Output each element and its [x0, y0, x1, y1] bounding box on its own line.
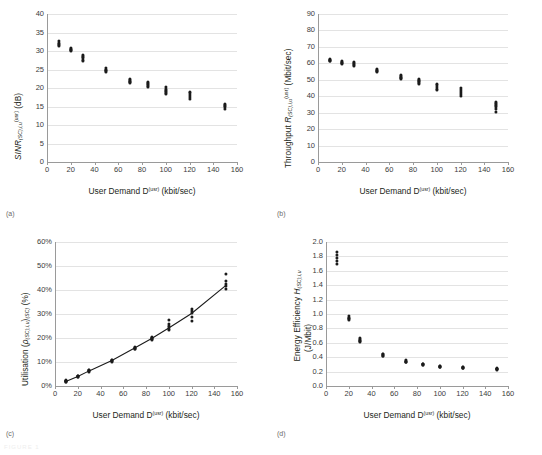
- data-point: [461, 366, 464, 369]
- y-tick-label: 35: [36, 29, 44, 37]
- data-point: [347, 318, 350, 321]
- gridline: [326, 328, 508, 329]
- caption-d: (d): [277, 430, 286, 437]
- y-tick-label: 2.0: [313, 238, 323, 246]
- subplot-a: 0510152025303540020406080100120140160 SI…: [0, 0, 271, 227]
- data-point: [340, 62, 343, 65]
- x-tick-label: 60: [114, 166, 122, 174]
- x-tick-label: 100: [433, 390, 446, 398]
- gridline: [318, 80, 508, 81]
- x-tick-label: 160: [231, 390, 244, 398]
- data-point: [435, 89, 438, 92]
- x-axis-label-a: User Demand D(usr) (kbit/sec): [88, 186, 195, 196]
- gridline: [326, 242, 508, 243]
- gridline: [326, 271, 508, 272]
- gridline: [318, 47, 508, 48]
- x-tick-label: 160: [231, 166, 244, 174]
- gridline: [47, 88, 237, 89]
- x-tick-label: 40: [361, 166, 369, 174]
- y-tick-label: 0.8: [313, 325, 323, 333]
- gridline: [318, 113, 508, 114]
- gridline: [47, 14, 237, 15]
- y-tick-label: 10: [36, 121, 44, 129]
- x-axis-label-d: User Demand D(usr) (kbit/sec): [363, 410, 470, 420]
- y-tick-label: 1.0: [313, 310, 323, 318]
- x-tick-label: 0: [316, 166, 320, 174]
- x-tick-label: 100: [430, 166, 443, 174]
- y-tick-label: 50%: [37, 262, 52, 270]
- data-point: [69, 49, 72, 52]
- y-tick-label: 30%: [37, 310, 52, 318]
- x-tick-label: 80: [413, 390, 421, 398]
- gridline: [318, 30, 508, 31]
- y-tick-label: 0.4: [313, 353, 323, 361]
- y-axis-label-d: Energy Efficiency H(SC),i,u: [293, 246, 302, 386]
- y-tick-label: 60: [307, 60, 315, 68]
- x-axis-label-b: User Demand D(usr) (kbit/sec): [359, 186, 466, 196]
- data-point: [417, 82, 420, 85]
- plot-area-a: 0510152025303540020406080100120140160: [47, 14, 237, 162]
- y-tick-label: 0: [40, 158, 44, 166]
- data-point: [129, 81, 132, 84]
- data-point: [438, 365, 441, 368]
- data-point: [105, 70, 108, 73]
- gridline: [326, 300, 508, 301]
- x-tick-label: 140: [478, 166, 491, 174]
- data-point: [188, 98, 191, 101]
- x-tick-label: 60: [119, 390, 127, 398]
- gridline: [47, 144, 237, 145]
- plot-area-c: 0%10%20%30%40%50%60%02040608010012014016…: [55, 242, 237, 386]
- data-point: [352, 64, 355, 67]
- y-tick-label: 20: [36, 84, 44, 92]
- y-tick-label: 25: [36, 66, 44, 74]
- data-point: [57, 44, 60, 47]
- y-tick-label: 1.4: [313, 281, 323, 289]
- data-point: [328, 60, 331, 63]
- y-axis-label-c: Utilisation (ρ(SC),i,u)(SC) (%): [21, 292, 30, 386]
- gridline: [47, 51, 237, 52]
- gridline: [318, 63, 508, 64]
- x-tick-label: 20: [67, 166, 75, 174]
- gridline: [326, 357, 508, 358]
- x-tick-label: 120: [183, 166, 196, 174]
- x-tick-label: 40: [90, 166, 98, 174]
- x-tick-label: 160: [502, 390, 515, 398]
- y-tick-label: 90: [307, 10, 315, 18]
- y-tick-label: 1.8: [313, 253, 323, 261]
- y-axis-label-a: SINR(SC),i,u(usr) (dB): [13, 93, 23, 160]
- y-tick-label: 30: [36, 47, 44, 55]
- y-tick-label: 30: [307, 109, 315, 117]
- gridline: [326, 372, 508, 373]
- x-tick-label: 120: [185, 390, 198, 398]
- x-tick-label: 120: [454, 166, 467, 174]
- data-point: [421, 364, 424, 367]
- y-axis-label-d-unit: (J/Mbit): [304, 324, 313, 352]
- x-tick-label: 20: [338, 166, 346, 174]
- y-tick-label: 0%: [41, 382, 52, 390]
- data-point: [164, 92, 167, 95]
- y-tick-label: 40%: [37, 286, 52, 294]
- y-tick-label: 10: [307, 142, 315, 150]
- y-axis-line: [326, 242, 327, 386]
- x-tick-label: 60: [385, 166, 393, 174]
- x-tick-label: 140: [479, 390, 492, 398]
- x-tick-label: 80: [142, 390, 150, 398]
- y-tick-label: 80: [307, 27, 315, 35]
- x-tick-label: 80: [409, 166, 417, 174]
- y-tick-label: 0.6: [313, 339, 323, 347]
- x-tick-label: 100: [159, 166, 172, 174]
- gridline: [47, 70, 237, 71]
- subplot-b: 0102030405060708090020406080100120140160…: [271, 0, 542, 227]
- series-line: [55, 242, 237, 386]
- x-tick-label: 120: [456, 390, 469, 398]
- caption-c: (c): [6, 430, 14, 437]
- y-tick-label: 10%: [37, 358, 52, 366]
- data-point: [81, 59, 84, 62]
- x-tick-label: 0: [53, 390, 57, 398]
- figure-container: 0510152025303540020406080100120140160 SI…: [0, 0, 542, 455]
- y-tick-label: 20%: [37, 334, 52, 342]
- gridline: [326, 256, 508, 257]
- caption-b: (b): [277, 210, 286, 217]
- x-tick-label: 20: [345, 390, 353, 398]
- x-tick-label: 140: [207, 166, 220, 174]
